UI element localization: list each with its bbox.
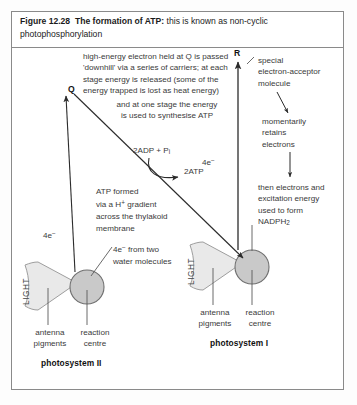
figure-caption: Figure 12.28 The formation of ATP: this … <box>20 15 338 40</box>
adp-subscript: i <box>169 148 170 155</box>
ps1-reaction-label: reaction centre <box>238 307 282 330</box>
figure-title-bold: The formation of ATP: <box>75 16 164 26</box>
atp-product-label: 2ATP <box>184 166 204 177</box>
atp-gradient-description: ATP formed via a H+ gradient across the … <box>96 186 218 234</box>
adp-phosphate-label: 2ADP + Pi <box>133 145 170 158</box>
nadph-subscript: 2 <box>286 219 290 226</box>
electrons-left-label: 4e− <box>43 228 56 242</box>
ps1-antenna-label: antenna pigments <box>191 307 239 330</box>
acceptor-molecule-label: special electron-acceptor molecule <box>258 55 350 89</box>
header-divider <box>12 47 344 48</box>
figure-root: Figure 12.28 The formation of ATP: this … <box>0 0 357 405</box>
ps2-light-label: LIGHT <box>22 278 31 305</box>
electrons-right-text: 4e <box>202 158 211 167</box>
ps2-antenna-label: antenna pigments <box>26 327 74 350</box>
r-label: R <box>234 48 240 58</box>
nadph-formation-label: then electrons and excitation energy use… <box>258 182 354 229</box>
electrons-right-charge: − <box>211 157 215 164</box>
q-label: Q <box>68 84 75 94</box>
downhill-description: high-energy electron held at Q is passed… <box>83 51 233 97</box>
momentarily-retains-label: momentarily retains electrons <box>262 116 352 150</box>
ps2-reaction-label: reaction centre <box>73 327 117 350</box>
electrons-left-charge: − <box>52 230 56 237</box>
electrons-left-text: 4e <box>43 231 52 240</box>
ps2-name: photosystem II <box>41 358 102 368</box>
ps1-light-label: LIGHT <box>187 258 196 285</box>
nadph-text: then electrons and excitation energy use… <box>258 183 325 226</box>
water-electrons-lead: 4e <box>113 245 122 254</box>
ps1-name: photosystem I <box>210 338 268 348</box>
figure-number: Figure 12.28 <box>20 16 70 26</box>
synthesise-atp-description: and at one stage the energy is used to s… <box>97 99 237 122</box>
adp-text: 2ADP + P <box>133 146 169 155</box>
electrons-right-label: 4e− <box>202 155 215 169</box>
